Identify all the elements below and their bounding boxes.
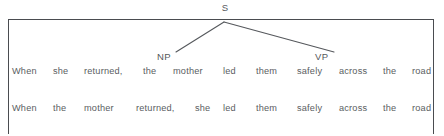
word: safely: [297, 101, 322, 115]
word: led: [223, 101, 236, 115]
word: the: [383, 101, 396, 115]
word: When: [12, 64, 37, 78]
word: led: [223, 64, 236, 78]
word: them: [256, 101, 277, 115]
sentence-row-1: Whenshereturned,themotherledthemsafelyac…: [8, 64, 434, 78]
word: the: [383, 64, 396, 78]
word: the: [143, 64, 156, 78]
word: them: [256, 64, 277, 78]
word: she: [195, 101, 210, 115]
word: When: [12, 101, 37, 115]
tree-node-vp: VP: [315, 51, 328, 62]
tree-node-s: S: [217, 2, 233, 14]
word: mother: [173, 64, 203, 78]
word: returned,: [136, 101, 175, 115]
word: the: [53, 101, 66, 115]
word: road: [412, 101, 431, 115]
tree-node-np: NP: [157, 51, 171, 62]
word: across: [339, 64, 367, 78]
word: road: [412, 64, 431, 78]
word: she: [53, 64, 68, 78]
sentence-row-2: Whenthemotherreturned,sheledthemsafelyac…: [8, 101, 434, 115]
word: across: [339, 101, 367, 115]
word: safely: [297, 64, 322, 78]
parse-tree-figure: S NP VP Whenshereturned,themotherledthem…: [0, 0, 444, 136]
word: returned,: [84, 64, 123, 78]
word: mother: [84, 101, 114, 115]
